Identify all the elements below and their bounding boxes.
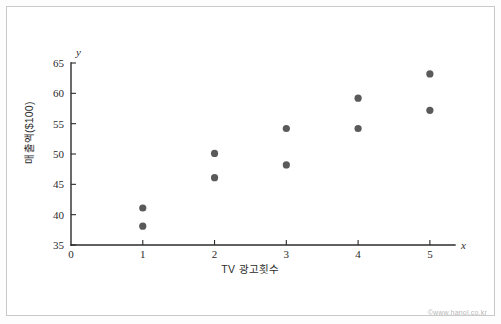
data-point	[211, 174, 218, 181]
x-tick-label: 2	[212, 248, 218, 260]
y-tick-label: 55	[53, 118, 65, 130]
axes-group	[71, 63, 455, 245]
x-tick-label: 3	[284, 248, 290, 260]
data-point	[426, 107, 433, 114]
y-tick-label: 35	[53, 239, 65, 251]
data-point	[211, 150, 218, 157]
y-tick-label: 50	[53, 148, 65, 160]
y-tick-label: 45	[53, 178, 65, 190]
x-axis-symbol: x	[460, 239, 466, 251]
data-point	[139, 223, 146, 230]
data-point	[426, 70, 433, 77]
x-tick-label: 5	[427, 248, 433, 260]
watermark: ©www.hanol.co.kr	[428, 309, 487, 316]
data-points-group	[139, 70, 433, 229]
y-tick-label: 40	[53, 209, 65, 221]
y-tick-label: 65	[53, 57, 65, 69]
y-axis-ticks: 35404550556065	[53, 57, 76, 251]
data-point	[283, 125, 290, 132]
y-axis-title: 매출액($100)	[21, 78, 36, 188]
x-tick-label: 0	[68, 248, 74, 260]
y-axis-symbol: y	[75, 46, 81, 58]
figure-container: 35404550556065 012345 y x TV 광고횟수 매출액($1…	[0, 0, 501, 324]
x-tick-label: 1	[140, 248, 146, 260]
x-tick-label: 4	[355, 248, 361, 260]
data-point	[139, 204, 146, 211]
data-point	[355, 95, 362, 102]
y-tick-label: 60	[53, 87, 65, 99]
x-axis-ticks: 012345	[68, 240, 433, 260]
data-point	[283, 161, 290, 168]
data-point	[355, 125, 362, 132]
x-axis-title: TV 광고횟수	[0, 261, 501, 276]
